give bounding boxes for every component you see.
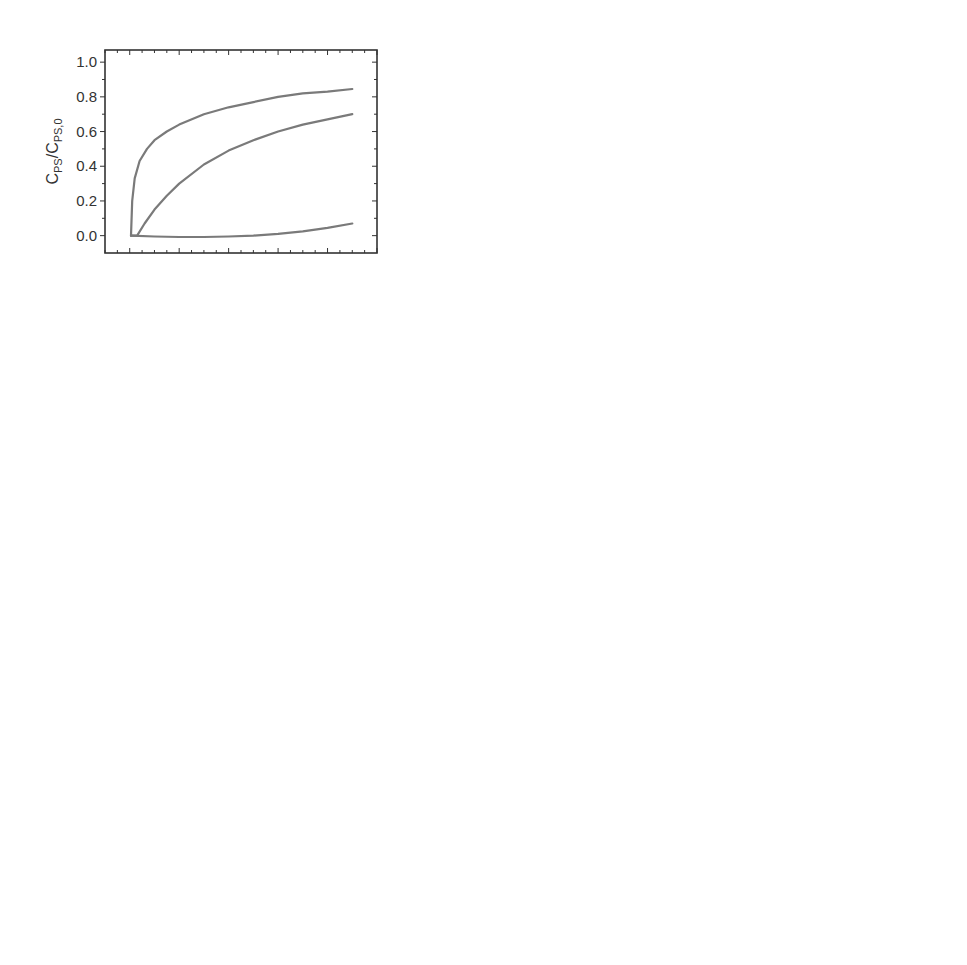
panel-a: 0.00.20.40.60.81.0CPS/CPS,0 (44, 50, 377, 253)
figure-canvas: 0.00.20.40.60.81.0CPS/CPS,0 (0, 0, 967, 965)
y-tick-label: 0.6 (76, 123, 97, 140)
y-tick-label: 1.0 (76, 53, 97, 70)
y-tick-label: 0.2 (76, 192, 97, 209)
curve-r-1-0-m (131, 89, 352, 236)
y-tick-label: 0.4 (76, 157, 97, 174)
curve-r-10-0-m (131, 224, 352, 238)
panel-grid: 0.00.20.40.60.81.0CPS/CPS,0 (44, 50, 377, 253)
y-tick-label: 0.8 (76, 88, 97, 105)
y-tick-label: 0.0 (76, 227, 97, 244)
y-axis-title: CPS/CPS,0 (44, 118, 64, 184)
